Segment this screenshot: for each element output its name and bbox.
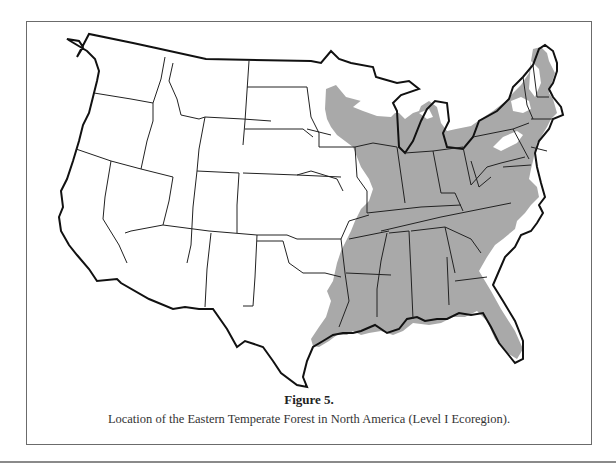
us-ecoregion-map: [27, 22, 593, 446]
page-divider: [0, 461, 616, 463]
eastern-temperate-forest-region: [311, 47, 557, 359]
south-florida-gap: [511, 363, 521, 371]
figure-frame: Figure 5. Location of the Eastern Temper…: [26, 21, 592, 445]
figure-caption: Location of the Eastern Temperate Forest…: [27, 412, 591, 427]
figure-label: Figure 5.: [27, 392, 591, 408]
